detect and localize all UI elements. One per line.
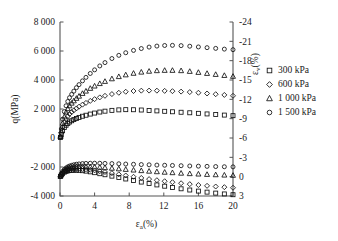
data-point-diamond (267, 81, 273, 87)
data-point-circle (196, 45, 200, 49)
data-point-diamond (187, 182, 192, 187)
data-point-diamond (205, 183, 210, 188)
data-point-diamond (179, 181, 184, 186)
data-point-diamond (97, 95, 102, 100)
y-right-tick-label: -12 (239, 95, 252, 105)
data-point-square (132, 108, 136, 112)
data-point-square (214, 191, 218, 195)
data-point-circle (139, 163, 143, 167)
data-point-triangle (139, 168, 144, 173)
data-point-circle (188, 164, 192, 168)
data-point-triangle (109, 76, 114, 81)
data-point-diamond (213, 92, 218, 97)
data-point-circle (147, 163, 151, 167)
data-point-circle (196, 164, 200, 168)
legend-item-1000kPa[interactable]: 1 000 kPa (264, 91, 338, 105)
data-point-triangle (222, 172, 227, 177)
data-point-circle (205, 46, 209, 50)
legend-item-300kPa[interactable]: 300 kPa (264, 63, 338, 77)
data-point-triangle (213, 172, 218, 177)
y-left-tick-label: -2 000 (30, 162, 55, 172)
data-point-triangle (162, 170, 167, 175)
y-right-tick-label: -24 (239, 17, 252, 27)
data-point-circle (103, 61, 107, 65)
data-point-triangle (179, 68, 184, 73)
y-right-tick-label: -9 (239, 114, 247, 124)
data-point-square (179, 187, 183, 191)
data-point-diamond (131, 89, 136, 94)
data-point-triangle (92, 83, 97, 88)
legend-item-1500kPa[interactable]: 1 500 kPa (264, 105, 338, 119)
y-axis-right-title: εv(%) (250, 53, 262, 75)
data-point-circle (77, 83, 81, 87)
data-point-square (170, 110, 174, 114)
data-point-diamond (222, 185, 227, 190)
data-point-circle (179, 164, 183, 168)
data-point-diamond (109, 92, 114, 97)
y-left-tick-label: 4 000 (34, 75, 56, 85)
legend-marker-circle-icon (264, 107, 275, 118)
data-point-square (196, 111, 200, 115)
y-right-tick-label: 3 (239, 191, 244, 201)
data-point-circle (170, 163, 174, 167)
legend-label: 300 kPa (278, 65, 309, 76)
data-point-square (188, 188, 192, 192)
data-point-circle (132, 162, 136, 166)
data-point-triangle (83, 88, 88, 93)
data-point-diamond (170, 89, 175, 94)
data-point-triangle (102, 79, 107, 84)
legend-item-600kPa[interactable]: 600 kPa (264, 77, 338, 91)
data-point-triangle (170, 68, 175, 73)
data-point-circle (124, 51, 128, 55)
y-right-tick-label: -21 (239, 37, 252, 47)
data-point-square (267, 68, 272, 73)
legend-label: 1 500 kPa (278, 107, 316, 118)
data-point-circle (222, 165, 226, 169)
data-point-diamond (196, 183, 201, 188)
data-point-square (163, 184, 167, 188)
data-point-triangle (267, 95, 273, 100)
data-point-square (110, 108, 114, 112)
svg-text:q(MPa): q(MPa) (10, 94, 21, 123)
data-point-triangle (222, 73, 227, 78)
x-axis-title: εa(%) (136, 219, 157, 231)
data-point-diamond (147, 177, 152, 182)
data-point-triangle (205, 172, 210, 177)
data-series-group (58, 43, 236, 196)
data-point-triangle (131, 71, 136, 76)
y-right-tick-label: -6 (239, 133, 247, 143)
data-point-circle (84, 75, 88, 79)
data-point-circle (117, 53, 121, 57)
data-point-diamond (116, 90, 121, 95)
data-point-diamond (162, 88, 167, 93)
data-point-square (155, 109, 159, 113)
data-point-square (124, 108, 128, 112)
legend-label: 1 000 kPa (278, 93, 316, 104)
data-point-triangle (196, 70, 201, 75)
data-point-square (88, 112, 92, 116)
series-300kPa-q (58, 108, 235, 140)
x-tick-label: 4 (92, 201, 97, 211)
y-left-tick-label: 6 000 (34, 46, 56, 56)
data-point-square (188, 111, 192, 115)
data-point-circle (93, 68, 97, 72)
data-point-circle (222, 47, 226, 51)
data-point-circle (147, 45, 151, 49)
data-point-circle (155, 163, 159, 167)
data-point-circle (214, 165, 218, 169)
legend-marker-triangle-icon (264, 93, 275, 104)
data-point-diamond (154, 178, 159, 183)
chart-legend: 300 kPa600 kPa1 000 kPa1 500 kPa (264, 63, 338, 119)
data-point-circle (170, 43, 174, 47)
data-point-diamond (102, 93, 107, 98)
data-point-square (117, 176, 121, 180)
data-point-diamond (162, 179, 167, 184)
series-1500kPa-ev (58, 161, 235, 178)
data-point-circle (110, 57, 114, 61)
data-point-square (117, 108, 121, 112)
data-point-circle (214, 46, 218, 50)
data-point-triangle (97, 81, 102, 86)
data-point-square (93, 111, 97, 115)
data-point-triangle (109, 166, 114, 171)
data-point-triangle (116, 74, 121, 79)
